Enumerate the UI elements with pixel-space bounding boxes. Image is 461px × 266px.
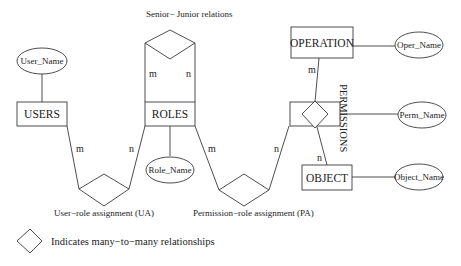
roles-label: ROLES xyxy=(152,108,188,120)
pa-roles-line xyxy=(195,126,219,190)
object-label: OBJECT xyxy=(306,172,348,184)
oper-name-label: Oper_Name xyxy=(397,40,441,50)
legend-diamond-icon xyxy=(17,229,42,253)
permissions-label: PERMISSIONS xyxy=(338,84,349,152)
users-label: USERS xyxy=(24,108,60,120)
ua-users-line xyxy=(67,126,79,189)
pa-diamond xyxy=(219,174,269,206)
card-perm-object: n xyxy=(317,152,322,163)
card-perm-operation: m xyxy=(308,64,316,75)
senior-junior-label: Senior− Junior relations xyxy=(146,9,233,19)
card-sj-right: n xyxy=(186,68,191,79)
pa-perm-line xyxy=(269,126,289,190)
senior-junior-diamond xyxy=(145,30,195,59)
ua-roles-line xyxy=(129,126,145,189)
role-name-label: Role_Name xyxy=(149,165,192,175)
object-name-label: Object_Name xyxy=(394,172,444,182)
card-pa-perm: n xyxy=(274,143,279,154)
ua-label: User−role assignment (UA) xyxy=(54,208,154,218)
user-name-label: User_Name xyxy=(21,56,64,66)
ua-diamond xyxy=(79,174,129,206)
pa-label: Permission−role assignment (PA) xyxy=(193,208,314,218)
perm-name-label: Perm_Name xyxy=(400,110,445,120)
card-pa-roles: m xyxy=(208,143,216,154)
card-ua-users: m xyxy=(76,143,84,154)
er-diagram: Senior− Junior relations m n ROLES User_… xyxy=(0,0,461,266)
card-sj-left: m xyxy=(149,68,157,79)
card-ua-roles: n xyxy=(129,143,134,154)
operation-label: OPERATION xyxy=(290,37,355,49)
legend-text: Indicates many−to−many relationships xyxy=(51,236,214,247)
